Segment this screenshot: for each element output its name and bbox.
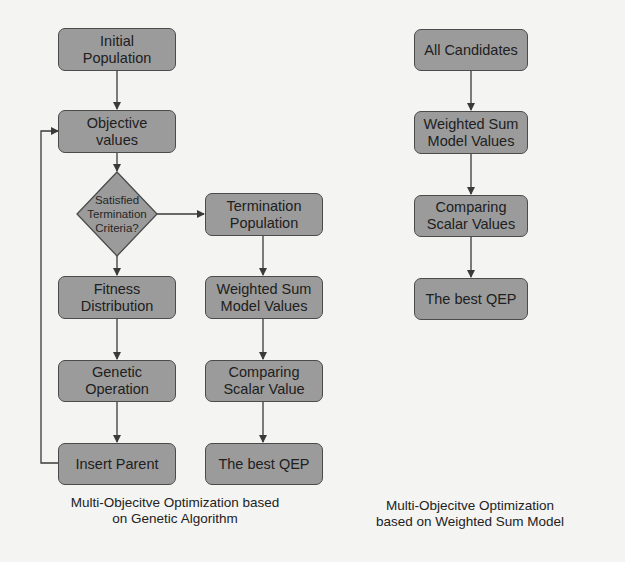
decision-label: Satisfied Termination Criteria?	[77, 186, 157, 242]
node-weighted-sum-left: Weighted Sum Model Values	[205, 276, 323, 319]
node-comparing-scalar-right: Comparing Scalar Values	[414, 195, 528, 237]
caption-weighted-sum-model: Multi-Objecitve Optimization based on We…	[355, 498, 585, 530]
node-termination-population: Termination Population	[205, 193, 323, 236]
node-best-qep-right: The best QEP	[414, 278, 528, 320]
node-best-qep-left: The best QEP	[205, 443, 323, 485]
node-initial-population: Initial Population	[58, 28, 176, 71]
node-genetic-operation: Genetic Operation	[58, 360, 176, 402]
node-insert-parent: Insert Parent	[58, 443, 176, 485]
node-fitness-distribution: Fitness Distribution	[58, 276, 176, 319]
node-comparing-scalar-left: Comparing Scalar Value	[205, 360, 323, 402]
caption-genetic-algorithm: Multi-Objecitve Optimization based on Ge…	[40, 495, 310, 527]
node-weighted-sum-right: Weighted Sum Model Values	[414, 111, 528, 154]
node-all-candidates: All Candidates	[414, 29, 528, 71]
node-objective-values: Objective values	[58, 110, 176, 153]
